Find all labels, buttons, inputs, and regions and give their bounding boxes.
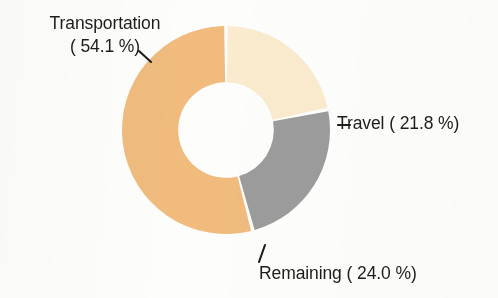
slice-remaining[interactable] (239, 111, 330, 230)
slice-travel[interactable] (227, 26, 328, 120)
slice-label-transportation: Transportation ( 54.1 %) (30, 12, 180, 58)
slice-label-travel-value: ( 21.8 %) (389, 113, 459, 133)
slice-label-remaining-value: ( 24.0 %) (347, 263, 417, 283)
slice-label-remaining-text: Remaining (259, 263, 342, 283)
slice-label-transportation-value: ( 54.1 %) (30, 35, 180, 58)
leader-line-remaining (259, 245, 265, 262)
slice-label-travel: Travel ( 21.8 %) (337, 112, 459, 135)
slice-label-transportation-name: Transportation (50, 13, 161, 33)
slice-label-remaining: Remaining ( 24.0 %) (259, 262, 417, 285)
donut-chart-figure: Transportation ( 54.1 %) Travel ( 21.8 %… (0, 0, 498, 298)
slice-label-travel-text: Travel (337, 113, 384, 133)
